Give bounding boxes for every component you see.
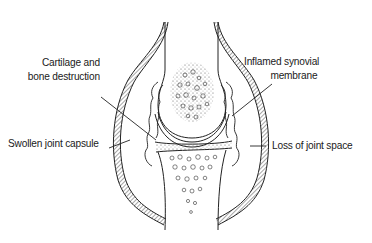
joint-illustration — [0, 0, 372, 243]
joint-diagram: Cartilage and bone destruction Inflamed … — [0, 0, 372, 243]
label-inflamed-synovial: Inflamed synovial membrane — [244, 54, 319, 82]
label-joint-space: Loss of joint space — [272, 138, 352, 152]
leader-cartilage — [101, 97, 156, 140]
lower-bone — [158, 150, 226, 230]
joint-capsule — [113, 22, 268, 225]
label-cartilage-line2: bone destruction — [28, 69, 100, 83]
label-synovial-line1: Inflamed synovial — [244, 54, 319, 68]
label-cartilage-line1: Cartilage and — [28, 55, 100, 69]
label-synovial-line2: membrane — [244, 68, 319, 82]
joint-space — [155, 141, 232, 152]
label-cartilage-destruction: Cartilage and bone destruction — [28, 55, 100, 83]
upper-bone — [155, 22, 229, 147]
label-swollen-capsule: Swollen joint capsule — [8, 136, 99, 150]
